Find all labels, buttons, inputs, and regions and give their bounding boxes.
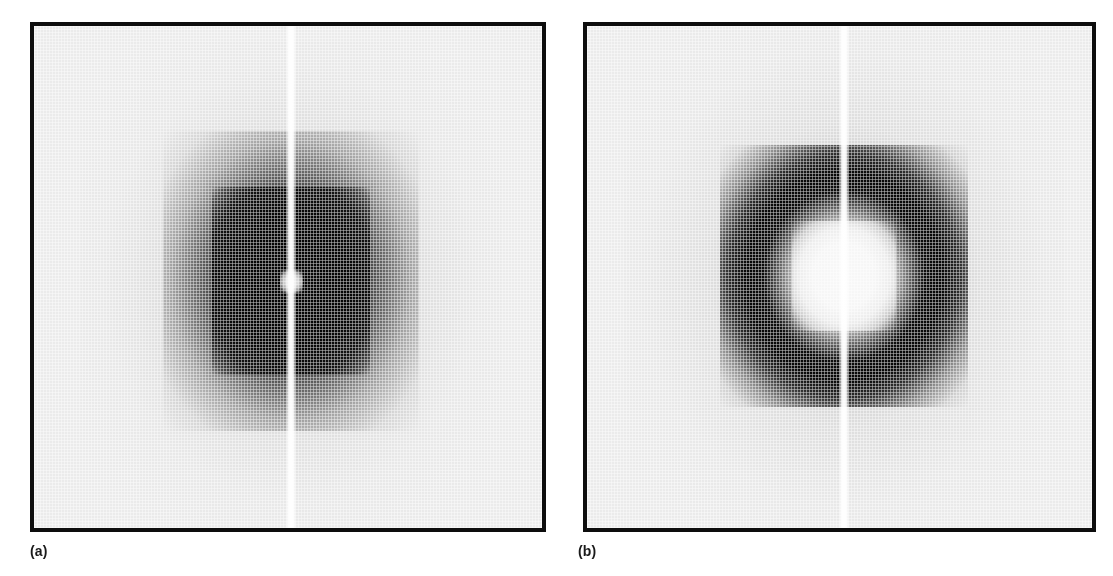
detector-pixel-texture-a <box>34 26 542 528</box>
bright-core-b <box>792 221 896 331</box>
panel-b <box>583 22 1096 532</box>
diffuse-halo-b <box>624 31 1064 521</box>
panel-a-caption: (a) <box>30 543 48 559</box>
dark-core-lobe-a <box>212 187 370 375</box>
dark-annulus-b <box>720 145 968 407</box>
beamstop-line-b <box>839 26 849 528</box>
panel-b-image <box>587 26 1092 528</box>
panel-a <box>30 22 546 532</box>
panel-a-image <box>34 26 542 528</box>
panel-b-caption: (b) <box>578 543 596 559</box>
diffuse-halo-a <box>81 41 501 521</box>
bright-center-spot-a <box>280 270 303 293</box>
beamstop-line-a <box>286 26 296 528</box>
figure-root: (a) (b) <box>0 0 1113 576</box>
detector-pixel-texture-b <box>587 26 1092 528</box>
mid-lobe-a <box>163 131 419 431</box>
